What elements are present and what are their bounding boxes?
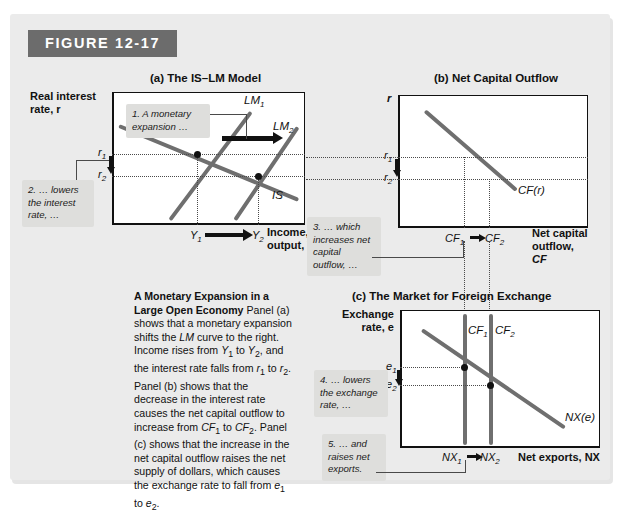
- note1-leader-horizontal: [204, 114, 247, 115]
- panel-b-r2-gridline: [398, 179, 588, 180]
- caption-body-10: .: [157, 497, 160, 509]
- panel-c-y-axis-label-line1: Exchange: [342, 308, 394, 320]
- caption-italic-1: LM: [179, 331, 194, 343]
- note2-leader-vertical: [76, 160, 77, 182]
- panel-a-r1-gridline: [112, 154, 305, 155]
- figure-card: FIGURE 12-17 (a) The IS–LM Model Real in…: [10, 14, 610, 480]
- panel-c-tick-nx1: NX1: [442, 451, 462, 466]
- figure-number-banner: FIGURE 12-17: [28, 30, 177, 57]
- curve-cf1-vertical: [463, 314, 467, 445]
- panel-c-equilibrium-2: [487, 382, 494, 389]
- panel-c-equilibrium-1: [461, 364, 468, 371]
- panel-c-y-axis-label: Exchange rate, e: [342, 308, 394, 334]
- panel-b-x-axis-label-line2: outflow,: [532, 240, 574, 252]
- panel-a-y-axis: [112, 92, 114, 225]
- panel-b-frame-top: [398, 95, 588, 96]
- note-3-callout: 3. … which increases net capital outflow…: [307, 217, 381, 276]
- panel-b-r1-gridline: [398, 157, 588, 158]
- cross-panel-r1-link: [306, 157, 398, 158]
- panel-a-tick-y1: Y1: [190, 229, 202, 244]
- caption-body-7: to: [220, 421, 235, 433]
- curve-lm1-label: LM1: [244, 94, 264, 109]
- panel-b-r-decrease-arrow: [395, 159, 398, 171]
- note-4-callout: 4. … lowers the exchange rate, …: [314, 370, 388, 417]
- panel-a-r2-gridline: [112, 176, 305, 177]
- panel-b-tick-cf2: CF2: [485, 232, 504, 247]
- panel-a-tick-r1: r1: [98, 146, 106, 161]
- panel-b-y-axis: [398, 95, 400, 228]
- note3-leader-horizontal: [372, 257, 464, 258]
- caption-body-3: to: [233, 344, 248, 356]
- panel-a-tick-r2: r2: [98, 168, 106, 183]
- panel-a-r-decrease-arrow: [109, 156, 112, 168]
- panel-b-frame-right: [587, 95, 588, 228]
- note-2-callout: 2. … lowers the interest rate, …: [22, 180, 94, 227]
- panel-a-x-axis: [112, 223, 305, 225]
- panel-c-e1-gridline: [400, 367, 466, 368]
- curve-is-label: IS: [272, 189, 283, 201]
- panel-a-tick-y2: Y2: [252, 229, 264, 244]
- panel-a-frame-right: [304, 92, 305, 225]
- caption-italic-7: CF: [235, 421, 249, 433]
- panel-c-x-axis: [400, 446, 600, 448]
- lm-shift-arrow: [222, 136, 274, 141]
- panel-a-y-increase-arrow: [205, 233, 244, 237]
- note5-leader-horizontal: [376, 472, 466, 473]
- panel-c-title: (c) The Market for Foreign Exchange: [352, 290, 551, 302]
- panel-b-x-axis-label-line3: CF: [532, 253, 547, 265]
- panel-c-y-axis-label-line2: rate, e: [362, 321, 394, 333]
- curve-nx-label: NX(e): [565, 411, 595, 423]
- note-1-callout: 1. A monetary expansion …: [126, 104, 210, 138]
- caption-sub-8: 1: [280, 484, 285, 494]
- panel-c-nx-increase-arrow: [467, 455, 477, 458]
- panel-b-cf2-gridline: [489, 179, 490, 228]
- caption-italic-3: Y: [248, 344, 255, 356]
- panel-a-x-axis-label-line1: Income,: [267, 226, 309, 238]
- note-5-callout: 5. … and raises net exports.: [322, 434, 386, 481]
- panel-a-y-axis-label-line2: rate, r: [30, 103, 61, 115]
- note5-leader-vertical: [465, 460, 466, 473]
- panel-c-e2-gridline: [400, 385, 492, 386]
- panel-a-y-axis-label: Real interest rate, r: [30, 90, 96, 116]
- panel-a-frame-top: [112, 92, 305, 93]
- panel-c-e-decrease-arrow: [397, 370, 400, 380]
- panel-a-equilibrium-2: [255, 173, 262, 180]
- cross-panel-r2-link: [306, 179, 398, 180]
- panel-c-frame-top: [400, 310, 600, 311]
- panel-a-y1-gridline: [197, 154, 198, 225]
- panel-a-title: (a) The IS–LM Model: [150, 72, 261, 84]
- panel-c-frame-right: [599, 310, 600, 448]
- figure-caption: A Monetary Expansion in a Large Open Eco…: [134, 290, 292, 514]
- panel-b-plot: CF(r): [398, 95, 588, 228]
- curve-cf-label: CF(r): [518, 184, 545, 196]
- curve-cf2-vertical: [489, 314, 493, 445]
- curve-lm2-label: LM2: [273, 120, 293, 135]
- panel-a-equilibrium-1: [194, 151, 201, 158]
- caption-italic-6: CF: [201, 421, 215, 433]
- panel-b-cf-increase-arrow: [470, 236, 480, 239]
- curve-cf2-label: CF2: [495, 324, 515, 339]
- panel-b-x-axis-label: Net capital outflow, CF: [532, 227, 588, 266]
- panel-b-title: (b) Net Capital Outflow: [434, 72, 558, 84]
- panel-b-x-axis-label-line1: Net capital: [532, 227, 588, 239]
- panel-a-y-axis-label-line1: Real interest: [30, 90, 96, 102]
- panel-b-y-axis-label: r: [387, 92, 391, 105]
- note1-leader-vertical: [246, 114, 247, 139]
- caption-body-9: to: [134, 497, 146, 509]
- curve-cf1-label: CF1: [468, 324, 488, 339]
- panel-b-tick-cf1: CF1: [445, 232, 464, 247]
- caption-body-5: to: [265, 362, 280, 374]
- panel-c-plot: CF1 CF2 NX(e): [400, 310, 600, 448]
- panel-b-cf1-gridline: [464, 157, 465, 228]
- panel-c-x-axis-label: Net exports, NX: [518, 451, 600, 464]
- note2-leader-horizontal: [76, 160, 109, 161]
- panel-a-y2-gridline: [258, 176, 259, 225]
- curve-nx: [421, 328, 566, 429]
